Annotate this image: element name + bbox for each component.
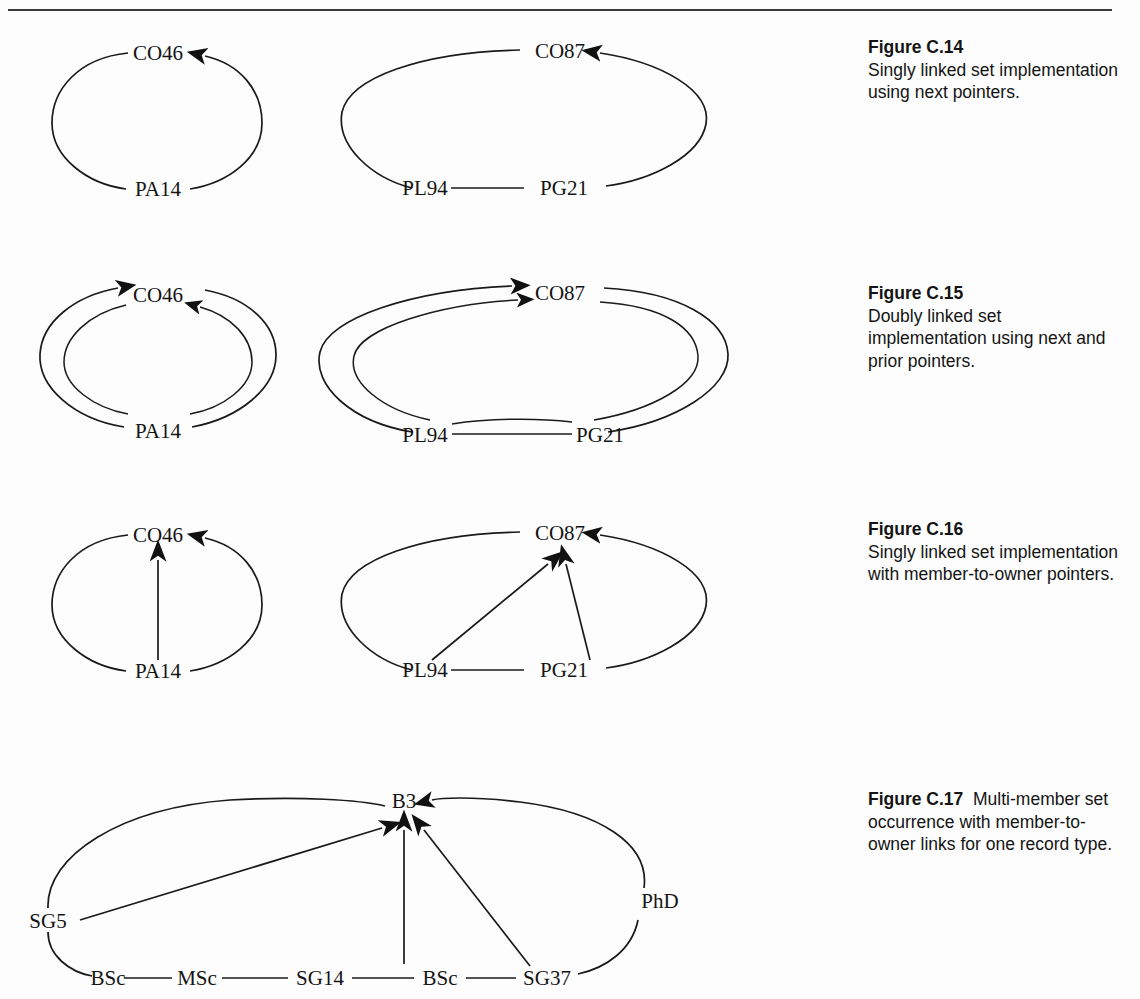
caption-c14: Figure C.14 Singly linked set implementa…	[868, 36, 1118, 104]
node-sg14: SG14	[296, 966, 344, 990]
node-co46: CO46	[133, 523, 183, 547]
c15-svg: CO46 PA14 CO87 PL94	[0, 262, 840, 462]
c14-right-diagram: CO87 PL94 PG21	[341, 39, 706, 200]
node-sg5: SG5	[29, 909, 66, 933]
node-pl94: PL94	[402, 658, 448, 682]
caption-c14-body: Singly linked set implementation using n…	[868, 60, 1118, 103]
c16-left-diagram: CO46 PA14	[52, 523, 262, 683]
figure-c16: CO46 PA14 CO87 PL94 PG21 Figure C	[0, 502, 1140, 712]
node-bsc-1: BSc	[90, 966, 125, 990]
node-pa14: PA14	[135, 659, 181, 683]
c15-diagram-group: CO46 PA14 CO87 PL94	[0, 262, 840, 462]
c15-left-diagram: CO46 PA14	[40, 283, 276, 443]
caption-c15-lead: Figure C.15	[868, 283, 963, 303]
edge-pa14-to-co46	[190, 538, 262, 671]
c14-left-diagram: CO46 PA14	[52, 41, 262, 201]
node-pg21: PG21	[540, 658, 588, 682]
edge-pl94-owner-pointer	[432, 564, 548, 660]
c17-main-diagram: B3 SG5 BSc MSc SG14 BSc SG37 PhD	[29, 789, 678, 990]
edge-pa14-to-co46	[190, 56, 262, 189]
edge-pl94-pg21-upper	[452, 419, 572, 424]
node-co46: CO46	[133, 41, 183, 65]
c16-svg: CO46 PA14 CO87 PL94 PG21	[0, 502, 840, 702]
node-co87: CO87	[535, 281, 585, 305]
c14-svg: CO46 PA14 CO87 PL94 PG21	[0, 20, 840, 220]
node-pl94: PL94	[402, 423, 448, 447]
edge-pg21-owner-pointer	[566, 564, 590, 660]
c15-right-diagram: CO87 PL94 PG21	[319, 281, 728, 447]
edge-inner-co87-to-pg21	[594, 302, 698, 420]
caption-c15-body: Doubly linked set implementation using n…	[868, 306, 1105, 371]
node-co46: CO46	[133, 283, 183, 307]
edge-co46-to-pa14	[52, 535, 128, 671]
c17-svg: B3 SG5 BSc MSc SG14 BSc SG37 PhD	[0, 760, 840, 960]
figure-c14: CO46 PA14 CO87 PL94 PG21 Figure C.14 Sin…	[0, 20, 1140, 230]
node-pl94: PL94	[402, 176, 448, 200]
edge-co46-to-pa14	[52, 53, 128, 189]
caption-c17-lead: Figure C.17	[868, 789, 963, 809]
edge-inner-pl94-to-co87	[353, 300, 518, 420]
caption-c16-body: Singly linked set implementation with me…	[868, 542, 1118, 585]
edge-inner-pa14-to-co46	[190, 307, 252, 414]
c16-diagram-group: CO46 PA14 CO87 PL94 PG21	[0, 502, 840, 702]
figure-page: CO46 PA14 CO87 PL94 PG21 Figure C.14 Sin…	[0, 0, 1140, 999]
edge-phd-to-b3	[432, 798, 644, 888]
edge-pg21-to-co87	[600, 535, 706, 668]
figure-c15: CO46 PA14 CO87 PL94	[0, 262, 1140, 472]
node-sg37: SG37	[523, 966, 571, 990]
edge-outer-pl94-to-co87	[319, 286, 512, 432]
edge-outer-co87-to-pg21	[604, 288, 728, 432]
node-pg21: PG21	[540, 176, 588, 200]
caption-c15: Figure C.15 Doubly linked set implementa…	[868, 282, 1118, 372]
node-phd: PhD	[641, 889, 678, 913]
edge-inner-co46-to-pa14	[64, 305, 128, 414]
c17-diagram-group: B3 SG5 BSc MSc SG14 BSc SG37 PhD	[0, 760, 840, 960]
node-co87: CO87	[535, 521, 585, 545]
edge-pg21-to-co87	[600, 53, 706, 186]
caption-c14-lead: Figure C.14	[868, 37, 963, 57]
node-pa14: PA14	[135, 419, 181, 443]
node-pg21: PG21	[576, 423, 624, 447]
caption-c16-lead: Figure C.16	[868, 519, 963, 539]
node-co87: CO87	[535, 39, 585, 63]
c16-right-diagram: CO87 PL94 PG21	[341, 521, 706, 682]
figure-c17: B3 SG5 BSc MSc SG14 BSc SG37 PhD Figure …	[0, 760, 1140, 960]
edge-sg5-to-b3-top	[48, 798, 385, 908]
edge-sg5-to-bsc	[48, 932, 92, 976]
caption-c16: Figure C.16 Singly linked set implementa…	[868, 518, 1118, 586]
edge-sg37-to-phd	[578, 920, 638, 974]
node-pa14: PA14	[135, 177, 181, 201]
edge-co87-to-pl94	[341, 50, 520, 188]
edge-outer-co46-to-pa14	[192, 290, 276, 427]
caption-c17: Figure C.17 Multi-member set occurrence …	[868, 788, 1118, 856]
node-msc: MSc	[177, 966, 217, 990]
edge-co87-to-pl94	[341, 532, 520, 670]
page-top-rule	[8, 9, 1112, 11]
node-b3: B3	[392, 789, 417, 813]
node-bsc-2: BSc	[422, 966, 457, 990]
c14-diagram-group: CO46 PA14 CO87 PL94 PG21	[0, 20, 840, 220]
edge-sg37-owner-pointer	[424, 830, 530, 966]
edge-sg5-owner-pointer	[80, 828, 382, 920]
